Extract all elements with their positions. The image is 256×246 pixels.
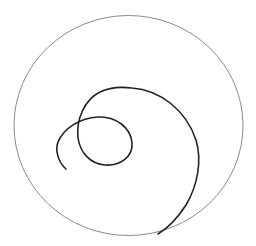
drawing-canvas <box>0 0 256 246</box>
outer-circle <box>14 16 243 236</box>
spiral-curve <box>57 87 199 234</box>
diagram-svg <box>0 0 256 246</box>
